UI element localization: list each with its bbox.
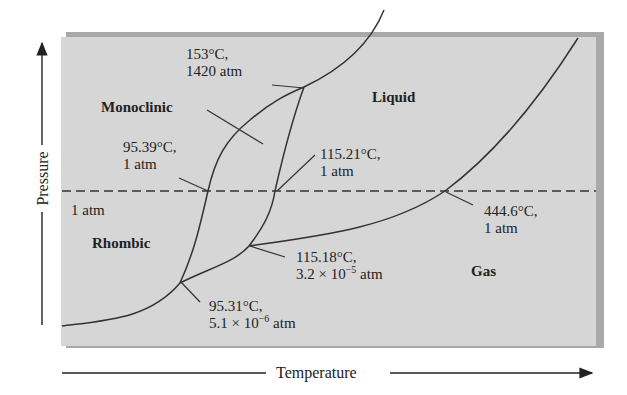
region-rhombic: Rhombic: [92, 235, 150, 252]
point-115-21-label: 115.21°C, 1 atm: [320, 146, 380, 180]
point-95-31-label: 95.31°C, 5.1 × 10−6 atm: [209, 298, 296, 332]
temp-value: 444.6°C,: [484, 203, 538, 220]
one-atm-label: 1 atm: [71, 202, 105, 219]
temp-value: 115.21°C,: [320, 146, 380, 163]
temp-value: 95.39°C,: [123, 139, 177, 156]
point-444-6-label: 444.6°C, 1 atm: [484, 203, 538, 237]
triple-point-153-label: 153°C, 1420 atm: [186, 46, 242, 80]
y-axis-label: Pressure: [34, 139, 51, 219]
pressure-value: 3.2 × 10−5 atm: [296, 266, 383, 283]
pressure-value: 1 atm: [484, 220, 538, 237]
pressure-value: 1420 atm: [186, 63, 242, 80]
temp-value: 153°C,: [186, 46, 242, 63]
pressure-value: 5.1 × 10−6 atm: [209, 315, 296, 332]
point-115-18-label: 115.18°C, 3.2 × 10−5 atm: [296, 249, 383, 283]
point-95-39-label: 95.39°C, 1 atm: [123, 139, 177, 173]
region-liquid: Liquid: [372, 89, 415, 106]
region-monoclinic: Monoclinic: [101, 99, 173, 116]
pressure-value: 1 atm: [123, 156, 177, 173]
region-gas: Gas: [471, 263, 496, 280]
phase-diagram-graphic: [0, 0, 627, 395]
temp-value: 95.31°C,: [209, 298, 296, 315]
temp-value: 115.18°C,: [296, 249, 383, 266]
x-axis-label: Temperature: [276, 364, 357, 381]
pressure-value: 1 atm: [320, 163, 380, 180]
